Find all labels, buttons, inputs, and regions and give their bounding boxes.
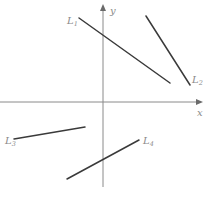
line-l3-segment (14, 127, 85, 139)
line-l3-label: L3 (4, 135, 16, 148)
line-l2-label: L2 (191, 74, 203, 87)
line-l4-label: L4 (142, 135, 154, 148)
line-l2-segment (146, 16, 190, 85)
y-axis-label: y (109, 5, 116, 16)
y-axis-arrow-icon (100, 4, 106, 11)
line-l1-label: L1 (66, 15, 78, 28)
coordinate-plane-diagram: x y L1 L2 L3 L4 (0, 0, 204, 201)
line-l4: L4 (67, 135, 154, 179)
x-axis-arrow-icon (196, 99, 203, 105)
x-axis-label: x (197, 107, 203, 118)
line-l2: L2 (146, 16, 203, 87)
line-l1-segment (79, 18, 170, 83)
line-l3: L3 (4, 127, 85, 148)
line-l1: L1 (66, 15, 170, 83)
